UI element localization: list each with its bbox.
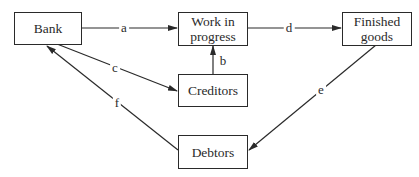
node-debtors: Debtors [178,135,248,169]
node-work-in-progress: Work in progress [178,12,248,46]
edge-d-label: d [284,21,295,34]
node-finished-goods: Finished goods [342,12,412,46]
edge-e-label: e [316,83,326,96]
node-finished-line2: goods [361,29,393,44]
node-debtors-label: Debtors [192,145,235,160]
node-bank-label: Bank [34,21,63,36]
node-creditors-label: Creditors [188,83,238,98]
edge-a-label: a [119,21,129,34]
node-wip-line2: progress [190,29,236,44]
node-creditors: Creditors [178,74,248,107]
node-bank: Bank [14,12,82,45]
edge-b-label: b [218,54,229,67]
node-wip-line1: Work in [191,14,235,29]
edge-c-label: c [110,61,120,74]
node-finished-line1: Finished [354,14,401,29]
edge-e-arrow [249,45,376,150]
edge-f-label: f [113,96,121,109]
